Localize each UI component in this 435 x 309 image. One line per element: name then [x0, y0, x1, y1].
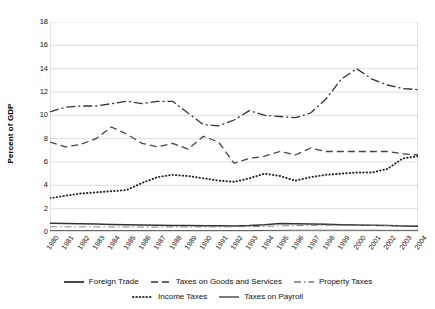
y-axis-title: Percent of GDP	[0, 78, 20, 188]
y-tick-label: 18	[26, 18, 48, 26]
x-tick-label: 1997	[306, 234, 321, 251]
x-tick-label: 2001	[367, 234, 382, 251]
x-tick-label: 2003	[398, 234, 413, 251]
x-tick-label: 1981	[60, 234, 75, 251]
legend-item-taxes-on-goods-and-services[interactable]: Taxes on Goods and Services	[150, 277, 282, 286]
x-tick-label: 1988	[168, 234, 183, 251]
plot-area	[50, 22, 418, 232]
series-line-taxes-on-goods-and-services-upper	[50, 69, 418, 126]
legend-line-swatch	[293, 278, 315, 286]
x-tick-label: 1990	[198, 234, 213, 251]
x-tick-label: 1998	[321, 234, 336, 251]
x-tick-label: 1982	[76, 234, 91, 251]
x-tick-label: 1989	[183, 234, 198, 251]
y-tick-label: 12	[26, 88, 48, 96]
x-tick-label: 1983	[91, 234, 106, 251]
legend-row: Income TaxesTaxes on Payroll	[0, 289, 435, 304]
legend-item-taxes-on-payroll[interactable]: Taxes on Payroll	[218, 292, 303, 301]
y-tick-label: 14	[26, 65, 48, 73]
x-tick-label: 1999	[336, 234, 351, 251]
x-tick-label: 2000	[352, 234, 367, 251]
y-tick-label: 0	[26, 228, 48, 236]
x-tick-label: 1987	[152, 234, 167, 251]
x-tick-label: 2004	[413, 234, 428, 251]
legend-item-label: Property Taxes	[319, 277, 372, 286]
x-tick-label: 1986	[137, 234, 152, 251]
y-tick-label: 8	[26, 135, 48, 143]
x-tick-label: 1991	[214, 234, 229, 251]
chart-container: Percent of GDP 024681012141618 198019811…	[0, 0, 435, 309]
y-tick-label: 4	[26, 181, 48, 189]
x-tick-label: 1985	[122, 234, 137, 251]
x-tick-label: 1993	[244, 234, 259, 251]
y-tick-label: 10	[26, 111, 48, 119]
x-tick-label: 1996	[290, 234, 305, 251]
series-line-taxes-on-goods-and-services	[50, 127, 418, 163]
y-axis-title-text: Percent of GDP	[6, 103, 15, 163]
y-tick-label: 2	[26, 205, 48, 213]
x-tick-label: 1995	[275, 234, 290, 251]
legend-line-swatch	[132, 293, 154, 301]
y-tick-label: 6	[26, 158, 48, 166]
legend-item-label: Taxes on Payroll	[244, 292, 303, 301]
x-tick-label: 1994	[260, 234, 275, 251]
chart-legend: Foreign TradeTaxes on Goods and Services…	[0, 274, 435, 309]
legend-row: Foreign TradeTaxes on Goods and Services…	[0, 274, 435, 289]
y-axis-ticks: 024681012141618	[22, 0, 48, 309]
x-tick-label: 2002	[382, 234, 397, 251]
legend-line-swatch	[150, 278, 172, 286]
legend-item-label: Foreign Trade	[89, 277, 139, 286]
legend-item-foreign-trade[interactable]: Foreign Trade	[63, 277, 139, 286]
x-tick-label: 1984	[106, 234, 121, 251]
x-tick-label: 1992	[229, 234, 244, 251]
legend-line-swatch	[218, 293, 240, 301]
x-axis-ticks: 1980198119821983198419851986198719881989…	[50, 234, 418, 274]
legend-item-label: Taxes on Goods and Services	[176, 277, 282, 286]
y-tick-label: 16	[26, 41, 48, 49]
legend-item-property-taxes[interactable]: Property Taxes	[293, 277, 372, 286]
series-line-foreign-trade	[50, 223, 418, 226]
legend-line-swatch	[63, 278, 85, 286]
legend-item-income-taxes[interactable]: Income Taxes	[132, 292, 207, 301]
legend-item-label: Income Taxes	[158, 292, 207, 301]
